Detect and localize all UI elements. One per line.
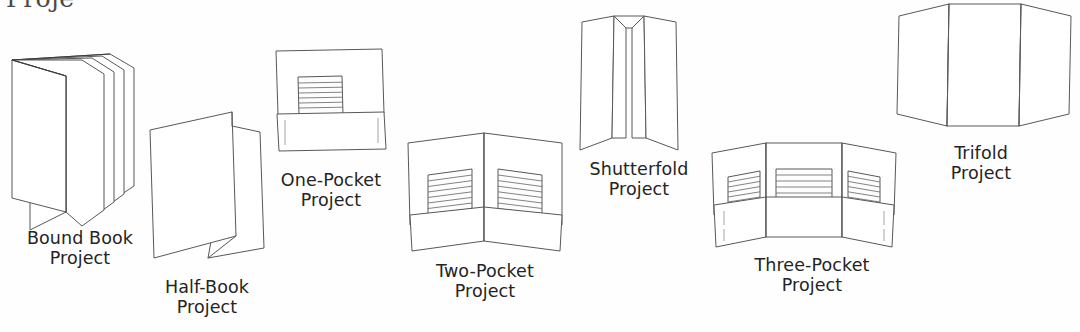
caption-line-2: Project xyxy=(732,275,892,295)
caption-half-book: Half-Book Project xyxy=(143,277,271,318)
figure-bound-book xyxy=(6,52,138,234)
trifold-illustration xyxy=(893,2,1075,139)
caption-line-1: Half-Book xyxy=(143,277,271,297)
caption-line-2: Project xyxy=(143,297,271,317)
caption-shutterfold: Shutterfold Project xyxy=(572,159,706,200)
caption-line-2: Project xyxy=(926,163,1036,183)
caption-line-2: Project xyxy=(572,179,706,199)
figure-one-pocket xyxy=(272,47,390,155)
cropped-heading-fragment: Proje xyxy=(6,0,74,13)
figure-half-book xyxy=(146,108,268,270)
caption-bound-book: Bound Book Project xyxy=(0,228,160,269)
caption-line-1: Two-Pocket xyxy=(414,261,556,281)
bound-book-illustration xyxy=(6,52,138,234)
caption-line-2: Project xyxy=(414,281,556,301)
three-pocket-illustration xyxy=(708,141,900,253)
caption-trifold: Trifold Project xyxy=(926,143,1036,184)
figure-trifold xyxy=(893,2,1075,139)
figure-sheet: Proje Bound Book Project xyxy=(0,0,1080,332)
figure-two-pocket xyxy=(406,131,566,253)
caption-line-1: Three-Pocket xyxy=(732,255,892,275)
caption-line-2: Project xyxy=(0,248,160,268)
two-pocket-illustration xyxy=(406,131,566,253)
caption-line-1: Bound Book xyxy=(0,228,160,248)
figure-three-pocket xyxy=(708,141,900,253)
caption-line-1: Trifold xyxy=(926,143,1036,163)
caption-line-1: Shutterfold xyxy=(572,159,706,179)
caption-one-pocket: One-Pocket Project xyxy=(263,170,399,211)
caption-line-2: Project xyxy=(263,190,399,210)
figure-shutterfold xyxy=(578,12,680,154)
caption-three-pocket: Three-Pocket Project xyxy=(732,255,892,296)
caption-line-1: One-Pocket xyxy=(263,170,399,190)
shutterfold-illustration xyxy=(578,12,680,154)
half-book-illustration xyxy=(146,108,268,270)
caption-two-pocket: Two-Pocket Project xyxy=(414,261,556,302)
one-pocket-illustration xyxy=(272,47,390,155)
